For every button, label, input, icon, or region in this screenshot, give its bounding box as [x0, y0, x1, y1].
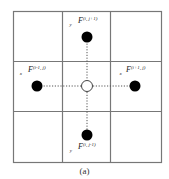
- node-left: [32, 81, 43, 92]
- node-right: [130, 81, 141, 92]
- node-bottom: [82, 130, 93, 141]
- stencil-diagram: [0, 0, 169, 179]
- node-top: [82, 32, 93, 43]
- label-right: F(i+1, j)x: [126, 66, 148, 74]
- node-center: [82, 81, 93, 92]
- label-bottom: F(i, j-1)y: [78, 143, 98, 151]
- label-left: F(i-1, j)x: [28, 66, 48, 74]
- label-top: F(i, j+1)y: [78, 17, 100, 25]
- figure-caption: (a): [0, 166, 169, 176]
